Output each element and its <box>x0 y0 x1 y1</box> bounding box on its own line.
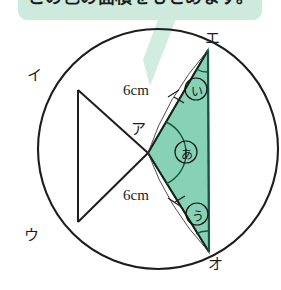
vertex-label-i: イ <box>27 63 42 84</box>
segment-e-o <box>208 50 209 252</box>
figure-canvas: この色の面積をもとめます。 ア イ ウ エ オ 6cm 6cm あ い う <box>0 0 281 290</box>
leader-upper <box>168 90 179 97</box>
dimension-label-lower: 6cm <box>123 187 149 204</box>
geometry-svg <box>0 0 281 290</box>
balloon-tail <box>143 14 178 86</box>
angle-label-lower: う <box>191 207 204 224</box>
vertex-label-o: オ <box>208 252 223 273</box>
balloon-body <box>18 0 262 20</box>
vertex-label-a: ア <box>131 117 146 138</box>
angle-label-upper: い <box>190 82 203 99</box>
vertex-label-e: エ <box>205 26 220 47</box>
angle-label-center: あ <box>180 145 193 162</box>
dimension-label-upper: 6cm <box>123 82 149 99</box>
vertex-label-u: ウ <box>24 223 39 244</box>
